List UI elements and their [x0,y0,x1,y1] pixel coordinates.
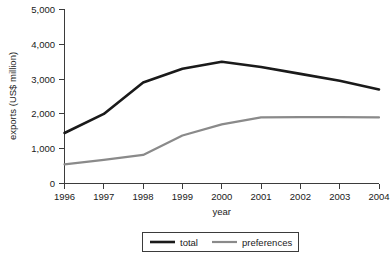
legend-label-total: total [180,237,198,248]
series-line-total [65,62,380,133]
y-tick-label: 4,000 [31,39,55,50]
x-tick-label: 2002 [290,191,311,202]
x-tick-label: 2003 [329,191,350,202]
y-axis-title: exports (US$ million) [7,52,18,140]
chart-legend: total preferences [143,233,299,252]
y-axis-tick-labels: 5,000 4,000 3,000 2,000 1,000 0 [31,4,55,189]
series-line-preferences [65,117,380,164]
y-axis-ticks [59,10,65,184]
x-tick-label: 2000 [211,191,232,202]
x-tick-label: 2001 [251,191,272,202]
x-axis-tick-labels: 1996 1997 1998 1999 2000 2001 2002 2003 … [54,191,390,202]
y-tick-label: 2,000 [31,108,55,119]
x-tick-label: 2004 [368,191,389,202]
x-tick-label: 1996 [54,191,75,202]
x-tick-label: 1998 [133,191,154,202]
x-axis-ticks [65,184,380,190]
x-tick-label: 1999 [172,191,193,202]
y-tick-label: 0 [50,178,55,189]
y-tick-label: 5,000 [31,4,55,15]
x-axis-title: year [213,206,231,217]
x-tick-label: 1997 [93,191,114,202]
y-tick-label: 3,000 [31,74,55,85]
line-chart: 5,000 4,000 3,000 2,000 1,000 0 exports … [0,0,391,256]
y-tick-label: 1,000 [31,143,55,154]
chart-figure: 5,000 4,000 3,000 2,000 1,000 0 exports … [0,0,391,256]
legend-label-preferences: preferences [242,237,292,248]
